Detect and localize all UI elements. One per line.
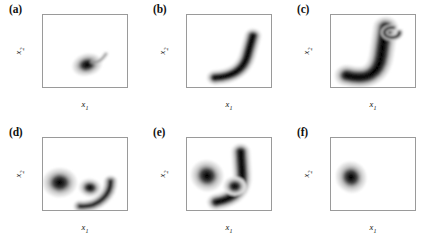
plot-axes: 210-1-2-3-1-0.500.51: [186, 14, 272, 88]
x-axis-label: x1: [42, 99, 128, 111]
panel-label: (c): [297, 3, 309, 15]
panel-c: (c)210-1-2-3-1-0.500.51x1x2: [288, 0, 432, 123]
panel-label: (f): [297, 126, 308, 138]
panel-d: (d)210-1-2-3-1-0.500.51x1x2: [0, 123, 144, 246]
y-axis-label-subscript: 2: [307, 171, 313, 174]
panel-label: (b): [153, 3, 166, 15]
plot-axes: 210-1-2-3-1-0.500.51: [42, 137, 128, 211]
x-axis-label-subscript: 1: [373, 105, 376, 111]
y-axis-label-text: x: [13, 174, 23, 178]
y-axis-label: x2: [157, 171, 169, 178]
y-axis-label-subscript: 2: [163, 48, 169, 51]
x-axis-label-subscript: 1: [229, 105, 232, 111]
plot-axes: 210-1-2-3-1-0.500.51: [330, 14, 416, 88]
density-contours: [331, 138, 415, 210]
density-contours: [187, 138, 271, 210]
y-axis-label: x2: [301, 48, 313, 55]
panel-label: (d): [9, 126, 22, 138]
y-axis-label-text: x: [157, 51, 167, 55]
density-contours: [43, 138, 127, 210]
panel-f: (f)210-1-2-3-1-0.500.51x1x2: [288, 123, 432, 246]
plot-axes: 210-1-2-3-1-0.500.51: [42, 14, 128, 88]
y-axis-label-subscript: 2: [307, 48, 313, 51]
plot-axes: 210-1-2-3-1-0.500.51: [330, 137, 416, 211]
x-axis-label: x1: [186, 222, 272, 234]
y-axis-label-text: x: [301, 51, 311, 55]
x-axis-label-subscript: 1: [85, 228, 88, 234]
x-axis-label-subscript: 1: [373, 228, 376, 234]
y-axis-label: x2: [157, 48, 169, 55]
panel-b: (b)210-1-2-3-1-0.500.51x1x2: [144, 0, 288, 123]
y-axis-label-text: x: [157, 174, 167, 178]
y-axis-label: x2: [301, 171, 313, 178]
y-axis-label-subscript: 2: [163, 171, 169, 174]
density-contours: [187, 15, 271, 87]
x-axis-label: x1: [42, 222, 128, 234]
y-axis-label: x2: [13, 171, 25, 178]
y-axis-label-subscript: 2: [19, 48, 25, 51]
panel-a: (a)210-1-2-3-1-0.500.51x1x2: [0, 0, 144, 123]
x-axis-label: x1: [330, 222, 416, 234]
density-contours: [43, 15, 127, 87]
density-contours: [331, 15, 415, 87]
panel-e: (e)210-1-2-3-1-0.500.51x1x2: [144, 123, 288, 246]
panel-label: (e): [153, 126, 165, 138]
x-axis-label-subscript: 1: [85, 105, 88, 111]
x-axis-label: x1: [330, 99, 416, 111]
x-axis-label-subscript: 1: [229, 228, 232, 234]
panel-label: (a): [9, 3, 22, 15]
x-axis-label: x1: [186, 99, 272, 111]
y-axis-label-text: x: [13, 51, 23, 55]
y-axis-label-subscript: 2: [19, 171, 25, 174]
y-axis-label: x2: [13, 48, 25, 55]
plot-axes: 210-1-2-3-1-0.500.51: [186, 137, 272, 211]
y-axis-label-text: x: [301, 174, 311, 178]
figure-panel-grid: (a)210-1-2-3-1-0.500.51x1x2(b)210-1-2-3-…: [0, 0, 434, 246]
